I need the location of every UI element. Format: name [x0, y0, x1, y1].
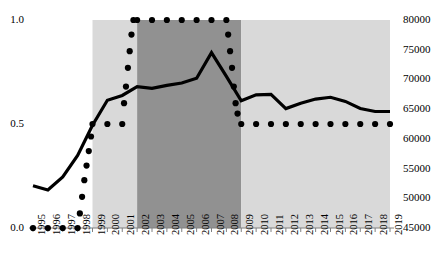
dotted-series-marker — [127, 48, 133, 54]
chart-root: 0.00.51.04500050000550006000065000700007… — [0, 0, 443, 271]
dark-band — [137, 20, 241, 228]
x-axis-tick-label: 2004 — [171, 214, 182, 235]
dotted-series-marker — [194, 17, 200, 23]
dotted-series-marker — [86, 148, 92, 154]
dotted-series-marker — [208, 17, 214, 23]
dotted-series-marker — [225, 31, 231, 37]
dotted-series-marker — [238, 121, 244, 127]
dotted-series-marker — [357, 121, 363, 127]
x-axis-tick-label: 1997 — [67, 214, 78, 235]
dotted-series-marker — [179, 17, 185, 23]
dotted-series-marker — [227, 48, 233, 54]
dotted-series-marker — [83, 163, 89, 169]
dotted-series-marker — [327, 121, 333, 127]
dotted-series-marker — [123, 83, 129, 89]
y-axis-right-tick-label: 60000 — [403, 133, 431, 144]
y-axis-right-tick-label: 70000 — [403, 73, 431, 84]
dotted-series-marker — [234, 111, 240, 117]
dotted-series-marker — [81, 177, 87, 183]
x-axis-tick-label: 2009 — [245, 214, 256, 235]
dotted-series-marker — [268, 121, 274, 127]
dotted-series-marker — [342, 121, 348, 127]
x-axis-tick-label: 2008 — [230, 214, 241, 235]
y-axis-left-tick-label: 1.0 — [0, 14, 24, 25]
dotted-series-marker — [119, 121, 125, 127]
x-axis-tick-label: 2014 — [320, 214, 331, 235]
x-axis-tick-label: 1996 — [52, 214, 63, 235]
dotted-series-marker — [232, 100, 238, 106]
dotted-series-marker — [283, 121, 289, 127]
y-axis-left-tick-label: 0.0 — [0, 222, 24, 233]
x-axis-tick-label: 2019 — [394, 214, 405, 235]
dotted-series-marker — [89, 121, 95, 127]
x-axis-tick-label: 2012 — [290, 214, 301, 235]
dotted-series-marker — [128, 31, 134, 37]
dotted-series-marker — [149, 17, 155, 23]
x-axis-tick-label: 2010 — [260, 214, 271, 235]
dotted-series-marker — [253, 121, 259, 127]
x-axis-tick-label: 2003 — [156, 214, 167, 235]
x-axis-tick-label: 2016 — [349, 214, 360, 235]
x-axis-tick-label: 2001 — [126, 214, 137, 235]
dotted-series-marker — [231, 83, 237, 89]
x-axis-tick-label: 2013 — [305, 214, 316, 235]
dotted-series-marker — [79, 194, 85, 200]
y-axis-right-tick-label: 80000 — [403, 14, 431, 25]
dotted-series-marker — [125, 65, 131, 71]
dotted-series-marker — [104, 121, 110, 127]
x-axis-tick-label: 2017 — [364, 214, 375, 235]
y-axis-right-tick-label: 75000 — [403, 44, 431, 55]
dotted-series-marker — [134, 17, 140, 23]
x-axis-tick-label: 2018 — [379, 214, 390, 235]
dotted-series-marker — [121, 100, 127, 106]
x-axis-tick-label: 2000 — [111, 214, 122, 235]
x-axis-tick-label: 2002 — [141, 214, 152, 235]
dotted-series-marker — [88, 133, 94, 139]
y-axis-right-tick-label: 45000 — [403, 222, 431, 233]
dotted-series-marker — [313, 121, 319, 127]
y-axis-right-tick-label: 55000 — [403, 163, 431, 174]
dotted-series-marker — [164, 17, 170, 23]
dotted-series-marker — [223, 17, 229, 23]
x-axis-tick-label: 1998 — [82, 214, 93, 235]
x-axis-tick-label: 1999 — [97, 214, 108, 235]
x-axis-tick-label: 2005 — [186, 214, 197, 235]
y-axis-left-tick-label: 0.5 — [0, 118, 24, 129]
x-axis-tick-label: 1995 — [37, 214, 48, 235]
x-axis-tick-label: 2006 — [201, 214, 212, 235]
x-axis-tick-label: 2011 — [275, 214, 286, 235]
dotted-series-marker — [229, 65, 235, 71]
dotted-series-marker — [387, 121, 393, 127]
dotted-series-marker — [372, 121, 378, 127]
dotted-series-marker — [298, 121, 304, 127]
y-axis-right-tick-label: 50000 — [403, 192, 431, 203]
x-axis-tick-label: 2007 — [216, 214, 227, 235]
y-axis-right-tick-label: 65000 — [403, 103, 431, 114]
x-axis-tick-label: 2015 — [335, 214, 346, 235]
